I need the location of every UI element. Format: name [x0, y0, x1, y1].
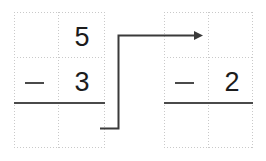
grid-line-h-bottom: [14, 147, 105, 148]
right-subtraction-grid[interactable]: − 2: [164, 12, 253, 148]
grid-line-h-mid: [14, 57, 105, 58]
right-answer-cell[interactable]: [209, 104, 252, 147]
grid-line-v-right: [104, 12, 105, 148]
left-minuend-digit[interactable]: 5: [64, 24, 100, 51]
right-subtrahend-digit[interactable]: 2: [214, 69, 250, 96]
left-subtrahend-digit[interactable]: 3: [64, 69, 100, 96]
grid-line-h-top: [14, 12, 105, 13]
left-answer-tens-cell[interactable]: [15, 104, 58, 147]
worksheet-canvas: 5 − 3 − 2: [0, 0, 266, 161]
right-minuend-cell[interactable]: [209, 13, 252, 56]
left-subtraction-grid[interactable]: 5 − 3: [14, 12, 105, 148]
right-answer-tens-cell[interactable]: [165, 104, 208, 147]
grid-line-v-right: [252, 12, 253, 148]
left-minus-operator-icon: [25, 82, 44, 84]
right-minus-operator-icon: [175, 82, 194, 84]
left-answer-cell[interactable]: [59, 104, 104, 147]
